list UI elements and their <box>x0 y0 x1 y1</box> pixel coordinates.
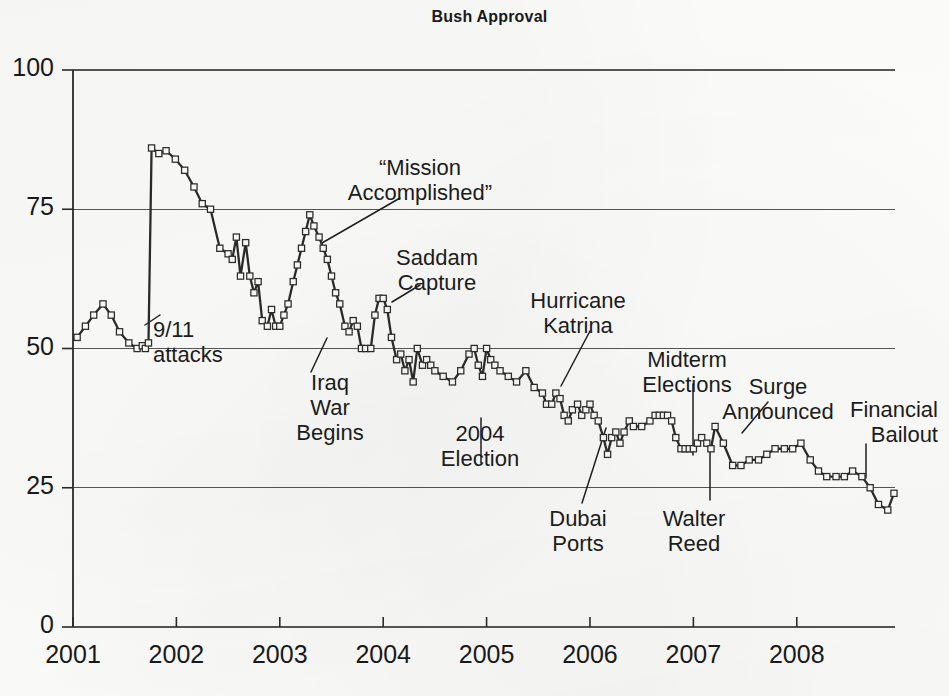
data-point <box>243 240 249 246</box>
data-point <box>384 306 390 312</box>
y-axis-tick-label-25: 25 <box>0 471 54 500</box>
chart-root: Bush Approval 1007550250 200120022003200… <box>0 0 949 696</box>
x-axis-tick-label-2006: 2006 <box>530 640 650 669</box>
data-point <box>368 345 374 351</box>
data-point <box>307 212 313 218</box>
x-axis-tick-label-2008: 2008 <box>737 640 857 669</box>
data-point <box>746 457 752 463</box>
data-point <box>82 323 88 329</box>
data-point <box>311 223 317 229</box>
data-point <box>807 457 813 463</box>
data-point <box>505 373 511 379</box>
data-point <box>497 368 503 374</box>
data-point <box>126 340 132 346</box>
data-point <box>471 345 477 351</box>
data-point <box>574 401 580 407</box>
data-point <box>815 468 821 474</box>
data-point <box>398 351 404 357</box>
data-point <box>91 312 97 318</box>
data-point <box>513 379 519 385</box>
x-axis-tick-label-2004: 2004 <box>323 640 443 669</box>
annotation-label-financial-bailout: Financial Bailout <box>638 397 938 447</box>
data-point <box>163 148 169 154</box>
data-point <box>354 323 360 329</box>
y-axis-tick-label-0: 0 <box>0 610 54 639</box>
annotation-label-hurricane-katrina: Hurricane Katrina <box>428 288 728 338</box>
data-point <box>74 334 80 340</box>
x-axis-tick-label-2001: 2001 <box>13 640 133 669</box>
data-point <box>738 462 744 468</box>
data-point <box>285 301 291 307</box>
data-point <box>247 273 253 279</box>
data-point <box>277 323 283 329</box>
data-point <box>549 401 555 407</box>
data-point <box>108 312 114 318</box>
data-point <box>182 167 188 173</box>
annotation-leader-iraq-war-begins <box>311 338 327 372</box>
data-point <box>145 340 151 346</box>
data-point <box>268 306 274 312</box>
data-point <box>217 245 223 251</box>
data-point <box>281 312 287 318</box>
data-point <box>380 295 386 301</box>
data-point <box>191 184 197 190</box>
y-axis-tick-label-100: 100 <box>0 53 54 82</box>
data-point <box>346 329 352 335</box>
data-point <box>229 256 235 262</box>
x-axis-tick-label-2002: 2002 <box>116 640 236 669</box>
data-point <box>841 474 847 480</box>
data-point <box>414 345 420 351</box>
data-point <box>388 334 394 340</box>
data-point <box>891 490 897 496</box>
x-axis-tick-label-2003: 2003 <box>220 640 340 669</box>
data-point <box>100 301 106 307</box>
x-axis-tick-label-2007: 2007 <box>633 640 753 669</box>
data-point <box>824 474 830 480</box>
data-point <box>116 329 122 335</box>
data-point <box>859 474 865 480</box>
data-point <box>833 474 839 480</box>
data-point <box>251 290 257 296</box>
y-axis-tick-label-75: 75 <box>0 192 54 221</box>
data-point <box>850 468 856 474</box>
data-point <box>630 423 636 429</box>
data-point <box>237 273 243 279</box>
data-point <box>207 206 213 212</box>
data-point <box>867 485 873 491</box>
data-point <box>316 234 322 240</box>
data-point <box>730 462 736 468</box>
data-point <box>303 228 309 234</box>
data-point <box>523 368 529 374</box>
data-point <box>172 156 178 162</box>
data-point <box>875 501 881 507</box>
annotation-label-mission-accomplished: “Mission Accomplished” <box>270 155 570 205</box>
data-point <box>475 362 481 368</box>
data-point <box>156 150 162 156</box>
data-point <box>372 312 378 318</box>
data-point <box>885 507 891 513</box>
annotation-label-walter-reed: Walter Reed <box>544 506 844 556</box>
data-point <box>406 357 412 363</box>
y-axis-tick-label-50: 50 <box>0 332 54 361</box>
data-point <box>483 345 489 351</box>
data-point <box>755 457 761 463</box>
data-point <box>764 451 770 457</box>
annotation-label-nine-eleven: 9/11 attacks <box>153 317 223 367</box>
data-point <box>148 145 154 151</box>
data-point <box>587 401 593 407</box>
data-point <box>255 279 261 285</box>
data-point <box>337 301 343 307</box>
data-point <box>264 323 270 329</box>
annotation-label-election-2004: 2004 Election <box>330 421 630 471</box>
x-axis-tick-label-2005: 2005 <box>427 640 547 669</box>
data-point <box>199 201 205 207</box>
data-point <box>233 234 239 240</box>
data-point <box>479 373 485 379</box>
